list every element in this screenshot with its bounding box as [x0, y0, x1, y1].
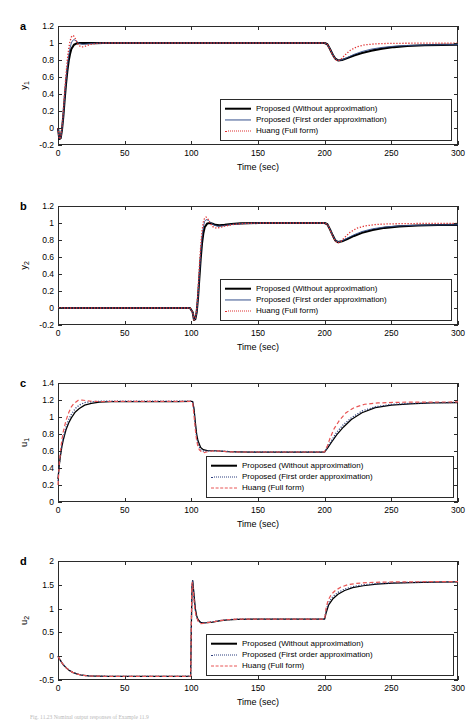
x-tick-label: 200 — [318, 505, 332, 515]
x-tick-label: 300 — [451, 328, 465, 338]
y-tick-mark — [58, 111, 62, 112]
x-tick-label: 0 — [56, 683, 61, 693]
y-tick-mark — [454, 485, 458, 486]
legend-label: Proposed (First order approximation) — [256, 114, 387, 125]
y-tick-label: 1 — [14, 412, 54, 422]
legend-c: Proposed (Without approximation)Proposed… — [206, 456, 454, 498]
x-tick-mark — [458, 498, 459, 502]
x-tick-mark — [325, 26, 326, 30]
y-axis-label-c: u1 — [18, 422, 31, 462]
x-tick-mark — [58, 676, 59, 680]
y-tick-mark — [58, 43, 62, 44]
x-tick-mark — [58, 141, 59, 145]
x-tick-label: 250 — [384, 505, 398, 515]
x-tick-mark — [191, 676, 192, 680]
x-tick-mark — [391, 383, 392, 387]
y-tick-mark — [58, 680, 62, 681]
x-tick-label: 200 — [318, 148, 332, 158]
y-tick-label: 0.2 — [14, 480, 54, 490]
x-tick-mark — [391, 141, 392, 145]
x-tick-label: 150 — [251, 148, 265, 158]
y-tick-mark — [58, 240, 62, 241]
y-tick-label: 2 — [14, 556, 54, 566]
plot-area-b: -0.200.20.40.60.811.2050100150200250300P… — [58, 206, 458, 325]
legend-line-swatch — [225, 306, 251, 316]
legend-label: Proposed (Without approximation) — [256, 283, 377, 294]
y-tick-label: 1 — [14, 218, 54, 228]
legend-line-swatch — [211, 661, 237, 671]
legend-line-swatch — [225, 295, 251, 305]
x-tick-mark — [458, 141, 459, 145]
legend-label: Proposed (First order approximation) — [256, 294, 387, 305]
y-tick-mark — [454, 585, 458, 586]
x-tick-mark — [391, 321, 392, 325]
legend-a: Proposed (Without approximation)Proposed… — [220, 99, 452, 141]
x-tick-mark — [391, 26, 392, 30]
figure-container: Fig. 11.23 Nominal output responses of E… — [0, 0, 466, 726]
x-tick-label: 300 — [451, 505, 465, 515]
y-tick-mark — [58, 60, 62, 61]
x-tick-mark — [325, 561, 326, 565]
legend-row: Huang (Full form) — [211, 482, 448, 493]
legend-line-swatch — [225, 126, 251, 136]
x-tick-label: 0 — [56, 328, 61, 338]
legend-d: Proposed (Without approximation)Proposed… — [206, 634, 454, 676]
x-tick-mark — [391, 676, 392, 680]
legend-label: Huang (Full form) — [256, 125, 318, 136]
legend-label: Proposed (Without approximation) — [242, 638, 363, 649]
y-tick-mark — [454, 656, 458, 657]
x-tick-label: 100 — [184, 505, 198, 515]
x-tick-mark — [258, 206, 259, 210]
legend-line-swatch — [211, 461, 237, 471]
y-tick-mark — [454, 274, 458, 275]
y-tick-mark — [58, 632, 62, 633]
x-tick-mark — [458, 676, 459, 680]
x-tick-mark — [258, 141, 259, 145]
legend-row: Proposed (Without approximation) — [211, 638, 448, 649]
x-tick-mark — [258, 676, 259, 680]
y-tick-mark — [58, 223, 62, 224]
x-tick-mark — [125, 321, 126, 325]
legend-row: Huang (Full form) — [225, 305, 446, 316]
legend-line-swatch — [225, 115, 251, 125]
y-tick-mark — [454, 77, 458, 78]
subplot-panel-d: d-0.500.511.52050100150200250300Proposed… — [0, 543, 466, 720]
x-tick-label: 100 — [184, 328, 198, 338]
x-tick-mark — [58, 321, 59, 325]
x-tick-mark — [258, 561, 259, 565]
x-tick-label: 50 — [120, 148, 129, 158]
y-tick-label: 1.2 — [14, 21, 54, 31]
x-tick-mark — [191, 561, 192, 565]
legend-label: Huang (Full form) — [242, 660, 304, 671]
y-tick-mark — [454, 400, 458, 401]
y-tick-mark — [454, 240, 458, 241]
x-tick-mark — [125, 206, 126, 210]
y-tick-label: 1.2 — [14, 201, 54, 211]
y-tick-label: 1.2 — [14, 395, 54, 405]
x-tick-mark — [58, 498, 59, 502]
x-tick-mark — [391, 498, 392, 502]
x-tick-mark — [191, 498, 192, 502]
x-tick-mark — [325, 498, 326, 502]
x-tick-mark — [458, 26, 459, 30]
y-tick-mark — [454, 325, 458, 326]
y-tick-mark — [454, 609, 458, 610]
y-tick-mark — [454, 308, 458, 309]
legend-label: Proposed (First order approximation) — [242, 471, 373, 482]
x-tick-mark — [125, 561, 126, 565]
y-tick-mark — [58, 94, 62, 95]
legend-label: Proposed (First order approximation) — [242, 649, 373, 660]
x-tick-mark — [125, 383, 126, 387]
legend-row: Proposed (Without approximation) — [211, 460, 448, 471]
subplot-panel-b: b-0.200.20.40.60.811.2050100150200250300… — [0, 188, 466, 365]
y-tick-mark — [454, 291, 458, 292]
x-tick-label: 250 — [384, 328, 398, 338]
x-tick-label: 50 — [120, 328, 129, 338]
y-tick-label: 0 — [14, 651, 54, 661]
legend-label: Proposed (Without approximation) — [256, 103, 377, 114]
x-tick-mark — [191, 206, 192, 210]
x-tick-mark — [258, 321, 259, 325]
x-tick-label: 200 — [318, 328, 332, 338]
y-axis-label-a: y1 — [18, 65, 31, 105]
x-tick-label: 150 — [251, 328, 265, 338]
